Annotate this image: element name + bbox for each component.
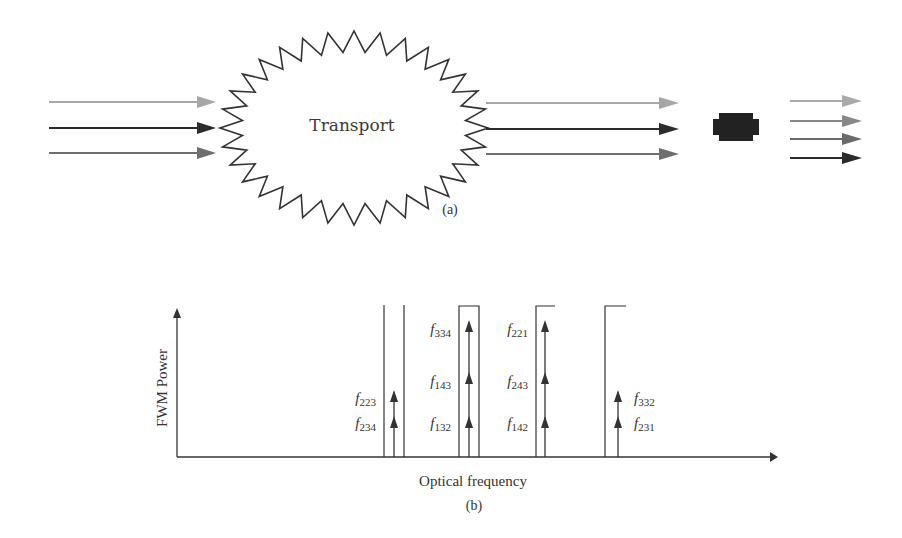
fwm-arrowhead-icon [541,416,549,428]
arrowhead-icon [842,152,862,164]
panel-b: FWM Power Optical frequency (b) f223 f23… [154,305,778,514]
y-axis-label: FWM Power [154,349,170,427]
fwm-arrow-stack-1 [390,390,398,457]
x-axis-arrowhead-icon [770,452,778,462]
fwm-label: f143 [430,373,451,391]
label-group-4: f332 f231 [634,390,655,433]
output-channel-2 [486,123,679,135]
received-channel-4 [790,152,862,164]
label-group-1: f223 f234 [355,390,376,433]
x-axis-label: Optical frequency [419,473,527,489]
input-channel-2 [49,122,216,134]
arrowhead-icon [197,147,216,159]
output-channel-3 [486,148,679,160]
fwm-arrowhead-icon [614,390,622,402]
fwm-label: f234 [355,415,376,433]
transport-label: Transport [309,115,395,135]
label-group-3: f221 f243 f142 [507,321,528,433]
output-arrows [486,97,679,160]
label-group-2: f334 f143 f132 [430,321,451,433]
receiver-arrows [790,95,862,164]
panel-a: Transport (a) [49,31,862,225]
arrowhead-icon [842,115,862,127]
fwm-arrow-stack-4 [614,390,622,457]
fwm-label: f221 [507,321,528,339]
fwm-label: f223 [355,390,376,408]
fwm-arrowhead-icon [541,372,549,384]
arrowhead-icon [659,123,679,135]
fwm-arrowhead-icon [465,320,473,332]
fwm-arrowhead-icon [465,416,473,428]
arrowhead-icon [197,122,216,134]
caption-a: (a) [442,202,458,218]
input-arrows [49,96,216,159]
fwm-arrowhead-icon [541,320,549,332]
fwm-arrowhead-icon [390,390,398,402]
fwm-label: f334 [430,321,451,339]
caption-b: (b) [466,498,483,514]
fwm-product-arrows [390,320,622,457]
fwm-label: f332 [634,390,655,408]
arrowhead-icon [659,97,679,109]
output-channel-1 [486,97,679,109]
fwm-arrowhead-icon [390,416,398,428]
arrowhead-icon [197,96,216,108]
input-channel-1 [49,96,216,108]
fwm-label: f142 [507,415,528,433]
received-channel-3 [790,133,862,145]
arrowhead-icon [842,133,862,145]
channel-window-4 [605,306,626,457]
arrowhead-icon [842,95,862,107]
fwm-label: f132 [430,415,451,433]
fwm-label: f231 [634,415,655,433]
arrowhead-icon [659,148,679,160]
fwm-arrowhead-icon [465,372,473,384]
received-channel-1 [790,95,862,107]
fwm-label: f243 [507,373,528,391]
y-axis-arrowhead-icon [173,308,181,318]
fwm-arrow-stack-2 [465,320,473,457]
input-channel-3 [49,147,216,159]
fwm-arrow-stack-3 [541,320,549,457]
fwm-diagram: Transport (a) FWM Power Optical frequenc… [0,0,902,538]
fwm-arrowhead-icon [614,416,622,428]
received-channel-2 [790,115,862,127]
demultiplexer-icon [713,113,759,141]
